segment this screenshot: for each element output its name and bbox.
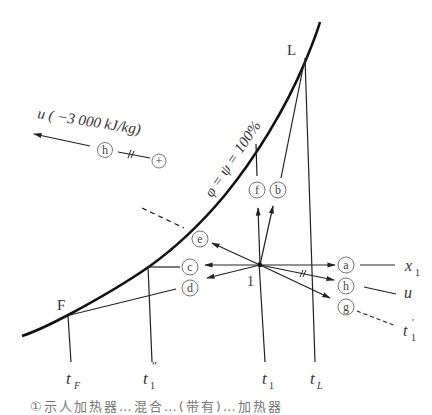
- saturation-curve: [22, 22, 320, 336]
- axis-label-tF-sub: F: [73, 380, 81, 391]
- point-F-label: F: [57, 297, 65, 313]
- legend-t1p-sup: ′: [412, 317, 414, 328]
- legend-t1p-sub: 1: [411, 332, 416, 343]
- arrow-f: [258, 208, 260, 265]
- axis-label-t1-sub: 1: [269, 380, 274, 391]
- axis-label-t1pp: t: [143, 369, 149, 388]
- circled-label-plus: +: [152, 154, 166, 168]
- b-connector: [281, 63, 304, 178]
- tL-line: [305, 58, 315, 362]
- circled-label-a: a: [338, 257, 354, 273]
- t1-line: [259, 262, 265, 362]
- svg-text:h: h: [102, 143, 108, 157]
- svg-text:g: g: [343, 300, 349, 314]
- state-point-1: [258, 263, 262, 267]
- scale-note: u ( −3 000 kJ/kg): [36, 105, 142, 138]
- legend-x1-sub: 1: [415, 267, 420, 278]
- tF-line: [68, 316, 71, 362]
- svg-text:e: e: [197, 232, 202, 246]
- axis-label-t1pp-sup: ″: [152, 359, 157, 373]
- d-connector: [70, 289, 176, 315]
- circled-label-e: e: [192, 231, 208, 247]
- scale-connector: [118, 152, 150, 158]
- axis-label-tL: t: [310, 369, 316, 388]
- legend-u: u: [404, 284, 412, 301]
- t1pp-line: [148, 266, 152, 362]
- circled-label-d: d: [182, 280, 198, 296]
- e-dashed-line: [142, 208, 184, 228]
- arrow-b: [260, 206, 273, 265]
- f-connector: [256, 144, 257, 176]
- axis-label-tL-sub: L: [316, 380, 323, 391]
- axis-label-t1pp-sub: 1: [150, 380, 155, 391]
- legend-line-u: [364, 287, 396, 294]
- scale-arrow: [34, 134, 90, 146]
- state-point-1-label: 1: [247, 274, 254, 289]
- svg-text:+: +: [156, 154, 163, 168]
- point-L-label: L: [287, 42, 296, 58]
- svg-text:b: b: [275, 183, 281, 197]
- svg-text:h: h: [343, 279, 349, 293]
- legend-line-t1p: [357, 311, 396, 326]
- svg-text:c: c: [187, 260, 192, 274]
- circled-label-c: c: [182, 259, 198, 275]
- figure-caption-partial: ①示人加热器…混合…(带有)…加热器: [30, 396, 283, 415]
- legend-x1: x: [404, 257, 412, 274]
- circled-label-g: g: [338, 299, 354, 315]
- arrow-h: [260, 265, 334, 280]
- process-arrows: [205, 206, 335, 298]
- circled-label-b: b: [270, 182, 286, 198]
- svg-text:a: a: [343, 258, 349, 272]
- circled-label-h: h: [338, 278, 354, 294]
- svg-text:f: f: [255, 183, 259, 197]
- axis-label-tF: t: [66, 369, 72, 388]
- axis-label-t1: t: [262, 369, 268, 388]
- circled-label-h-ref: h: [98, 143, 113, 158]
- circled-label-f: f: [249, 182, 265, 198]
- arrow-g: [260, 265, 330, 298]
- svg-text:d: d: [187, 281, 193, 295]
- arrow-e: [212, 243, 260, 265]
- legend-t1p: t: [403, 322, 408, 339]
